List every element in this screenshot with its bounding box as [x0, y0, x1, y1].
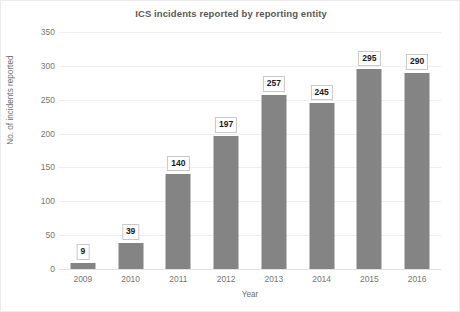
bar[interactable]	[118, 243, 143, 269]
y-axis-tick-label: 0	[17, 265, 55, 274]
x-axis-title: Year	[59, 291, 441, 299]
x-axis-tick-label: 2013	[250, 275, 298, 284]
bar-value-label: 39	[122, 224, 139, 240]
y-axis-tick-label: 350	[17, 28, 55, 37]
bar-value-label: 197	[215, 117, 237, 133]
x-axis-tick-label: 2010	[107, 275, 155, 284]
y-axis-tick-label: 150	[17, 163, 55, 172]
bar-slot: 245	[298, 32, 346, 269]
x-axis-tick-label: 2011	[155, 275, 203, 284]
bar-slot: 9	[59, 32, 107, 269]
x-axis-tick-label: 2009	[59, 275, 107, 284]
x-axis-tick-label: 2016	[393, 275, 441, 284]
bar[interactable]	[214, 136, 239, 269]
bar-slot: 257	[250, 32, 298, 269]
bar-chart-figure: ICS incidents reported by reporting enti…	[0, 0, 460, 312]
chart-title: ICS incidents reported by reporting enti…	[1, 8, 460, 19]
bar-slot: 39	[107, 32, 155, 269]
gridline	[59, 269, 441, 270]
bar-slot: 295	[346, 32, 394, 269]
bar[interactable]	[70, 263, 95, 269]
bar-value-label: 295	[358, 51, 380, 67]
y-axis-tick-label: 50	[17, 231, 55, 240]
plot-area: 939140197257245295290	[59, 32, 441, 269]
x-axis-tick-label: 2015	[346, 275, 394, 284]
y-axis-title: No. of incidents reported	[7, 45, 15, 155]
y-axis-tick-label: 300	[17, 62, 55, 71]
bar-value-label: 245	[311, 85, 333, 101]
bar-slot: 197	[202, 32, 250, 269]
y-axis-tick-label: 250	[17, 95, 55, 104]
bar[interactable]	[357, 69, 382, 269]
y-axis-tick-label: 200	[17, 129, 55, 138]
bar-value-label: 257	[263, 76, 285, 92]
y-axis-tick-labels: 050100150200250300350	[17, 32, 55, 269]
bar-value-label: 290	[406, 54, 428, 70]
bar[interactable]	[166, 174, 191, 269]
y-axis-tick-label: 100	[17, 197, 55, 206]
bar-value-label: 9	[77, 244, 90, 260]
bar-slot: 290	[393, 32, 441, 269]
bar-slot: 140	[155, 32, 203, 269]
x-axis-tick-label: 2014	[298, 275, 346, 284]
bar[interactable]	[309, 103, 334, 269]
bar[interactable]	[261, 95, 286, 269]
bar[interactable]	[405, 73, 430, 269]
bar-value-label: 140	[167, 156, 189, 172]
x-axis-tick-label: 2012	[202, 275, 250, 284]
